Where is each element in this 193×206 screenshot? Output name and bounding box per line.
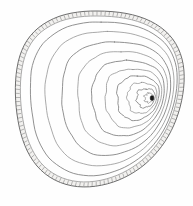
tree-cross-section-illustration: [0, 0, 193, 206]
pith-center-dot: [150, 95, 154, 100]
cambium-inner-outline: [20, 16, 179, 182]
tree-ring-svg-canvas: [0, 0, 193, 206]
